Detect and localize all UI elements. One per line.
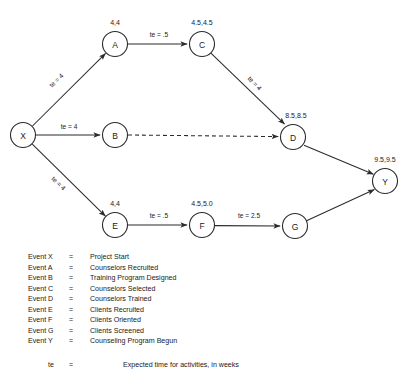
legend-row-c: Event C = Counselors Selected	[28, 284, 177, 295]
legend-row-g: Event G = Clients Screened	[28, 326, 177, 337]
legend-description: Counselors Trained	[90, 294, 177, 305]
edges-layer	[32, 44, 374, 226]
legend-equals: =	[69, 252, 90, 263]
legend-equals: =	[69, 315, 90, 326]
legend-key: Event B	[28, 273, 69, 284]
legend-description: Clients Recruited	[90, 305, 177, 316]
legend-row-x: Event X = Project Start	[28, 252, 177, 263]
node-y-time: 9.5,9.5	[374, 156, 396, 163]
edge-d-y	[304, 145, 373, 174]
node-f-time: 4.5,5.0	[191, 200, 213, 207]
edge-label-a-c: te = .5	[150, 31, 169, 38]
legend-key: Event E	[28, 305, 69, 316]
node-b-label: B	[112, 131, 118, 141]
node-y[interactable]: Y 9.5,9.5	[373, 156, 398, 194]
legend-description: Clients Screened	[90, 326, 177, 337]
node-c-label: C	[199, 40, 205, 50]
legend-equals: =	[69, 305, 90, 316]
legend-equals: =	[69, 294, 90, 305]
legend-key: Event D	[28, 294, 69, 305]
footnote-key: te	[48, 361, 69, 369]
legend-row-b: Event B = Training Program Designed	[28, 273, 177, 284]
legend-description: Clients Oriented	[90, 315, 177, 326]
legend-key: Event G	[28, 326, 69, 337]
edge-label-f-g: te = 2.5	[238, 212, 261, 219]
edge-label-x-e: te = 4	[50, 175, 67, 192]
node-d[interactable]: D 8.5,8.5	[281, 112, 307, 150]
legend-key: Event Y	[28, 336, 69, 347]
footnote: te = Expected time for activities, in we…	[48, 361, 239, 369]
edge-b-d-dummy	[128, 135, 278, 137]
node-e[interactable]: E 4,4	[103, 200, 128, 238]
legend-key: Event A	[28, 263, 69, 274]
legend-key: Event X	[28, 252, 69, 263]
node-g-label: G	[292, 222, 299, 232]
legend-equals: =	[69, 336, 90, 347]
legend-equals: =	[69, 326, 90, 337]
legend-description: Counselors Selected	[90, 284, 177, 295]
legend-equals: =	[69, 284, 90, 295]
legend-description: Counselors Recruited	[90, 263, 177, 274]
footnote-description: Expected time for activities, in weeks	[123, 361, 239, 369]
edge-label-e-f: te = .5	[150, 212, 169, 219]
legend-row-f: Event F = Clients Oriented	[28, 315, 177, 326]
legend-description: Counseling Program Begun	[90, 336, 177, 347]
legend-key: Event F	[28, 315, 69, 326]
node-b[interactable]: B	[103, 123, 128, 148]
node-x-label: X	[20, 131, 26, 141]
legend-description: Project Start	[90, 252, 177, 263]
node-a[interactable]: A 4,4	[103, 19, 128, 57]
legend-row-e: Event E = Clients Recruited	[28, 305, 177, 316]
node-a-label: A	[112, 40, 118, 50]
legend: Event X = Project Start Event A = Counse…	[28, 252, 177, 347]
edge-label-x-a: te = 4	[48, 72, 65, 89]
node-d-time: 8.5,8.5	[285, 112, 307, 119]
edge-x-a	[33, 53, 106, 126]
node-e-time: 4,4	[110, 200, 120, 207]
legend-row-a: Event A = Counselors Recruited	[28, 263, 177, 274]
node-f[interactable]: F 4.5,5.0	[190, 200, 215, 238]
footnote-equals: =	[69, 361, 123, 369]
legend-equals: =	[69, 273, 90, 284]
node-x[interactable]: X	[11, 123, 36, 148]
node-c[interactable]: C 4.5,4.5	[190, 19, 215, 57]
node-c-time: 4.5,4.5	[191, 19, 213, 26]
legend-row-d: Event D = Counselors Trained	[28, 294, 177, 305]
node-a-time: 4,4	[110, 19, 120, 26]
edge-g-y	[306, 190, 374, 221]
node-d-label: D	[290, 133, 296, 143]
node-f-label: F	[199, 221, 204, 231]
legend-equals: =	[69, 263, 90, 274]
legend-description: Training Program Designed	[90, 273, 177, 284]
edge-c-d	[211, 53, 285, 124]
legend-row-y: Event Y = Counseling Program Begun	[28, 336, 177, 347]
node-e-label: E	[112, 221, 118, 231]
edge-label-x-b: te = 4	[61, 123, 78, 130]
node-y-label: Y	[382, 177, 388, 187]
legend-key: Event C	[28, 284, 69, 295]
node-g[interactable]: G	[283, 214, 308, 239]
edge-x-e	[32, 144, 105, 216]
